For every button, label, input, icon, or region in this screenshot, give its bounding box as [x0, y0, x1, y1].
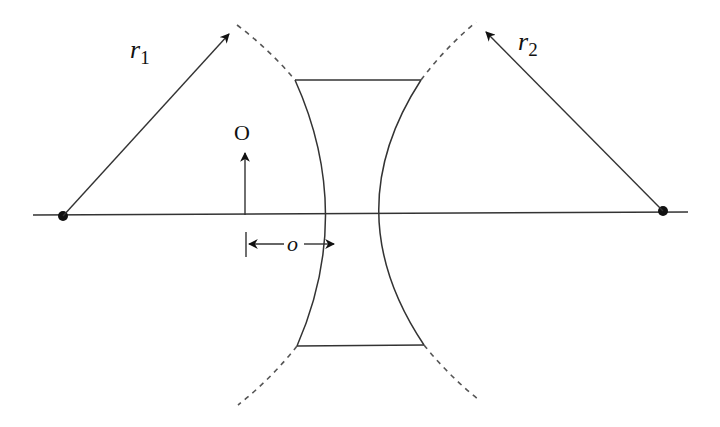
surface-left-dashed-top — [237, 25, 295, 80]
lens-bottom-edge — [297, 345, 424, 346]
lens-surface-right — [379, 80, 424, 345]
surface-left-dashed-bottom — [238, 346, 297, 405]
label-object-distance: o — [287, 231, 298, 256]
label-r2: r2 — [518, 27, 538, 60]
surface-right-dashed-bottom — [424, 345, 479, 400]
radius-r2-arrow — [486, 32, 663, 211]
label-r1: r1 — [130, 35, 150, 68]
label-object: O — [234, 120, 250, 145]
optical-axis — [33, 212, 688, 215]
lens-diagram: r1 r2 O o — [0, 0, 720, 427]
surface-right-dashed-top — [421, 22, 476, 80]
